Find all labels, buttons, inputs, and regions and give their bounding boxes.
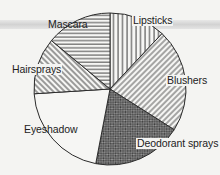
label-eyeshadow: Eyeshadow (23, 124, 78, 135)
label-deodorant-sprays: Deodorant sprays (136, 138, 219, 149)
label-mascara: Mascara (47, 19, 89, 30)
label-hairsprays: Hairsprays (11, 64, 62, 75)
label-lipsticks: Lipsticks (132, 15, 173, 26)
label-blushers: Blushers (166, 75, 208, 86)
